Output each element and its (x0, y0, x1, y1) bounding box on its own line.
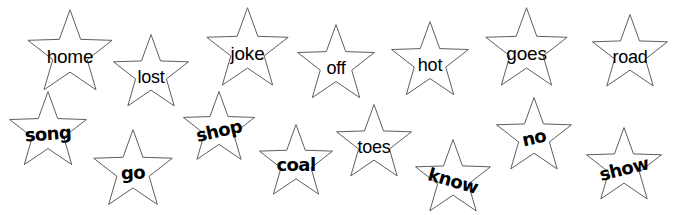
word-label: off (294, 59, 378, 77)
star-word-coal[interactable]: coal (256, 123, 336, 203)
star-word-know[interactable]: know (412, 138, 494, 215)
word-label: lost (110, 68, 192, 86)
star-word-off[interactable]: off (294, 23, 378, 107)
word-label: joke (203, 44, 292, 63)
word-label: road (589, 48, 671, 66)
star-word-no[interactable]: no (493, 96, 575, 178)
star-word-toes[interactable]: toes (333, 103, 415, 185)
star-word-joke[interactable]: joke (203, 6, 292, 95)
word-star-worksheet: ow many words can you read in a minute? … (0, 0, 675, 215)
word-label: home (24, 47, 116, 66)
star-word-song[interactable]: song (6, 90, 90, 174)
star-word-go[interactable]: go (90, 128, 176, 214)
star-word-shop[interactable]: shop (180, 90, 258, 168)
star-word-road[interactable]: road (589, 13, 671, 95)
word-label: toes (333, 138, 415, 156)
star-word-goes[interactable]: goes (482, 6, 571, 95)
word-label: coal (256, 156, 336, 174)
star-word-home[interactable]: home (24, 8, 116, 100)
word-label: hot (388, 56, 472, 74)
word-label: goes (482, 44, 571, 63)
star-word-hot[interactable]: hot (388, 20, 472, 104)
star-word-show[interactable]: show (583, 126, 665, 208)
